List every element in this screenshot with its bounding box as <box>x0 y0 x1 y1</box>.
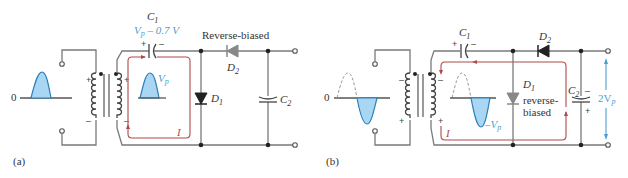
zero-label: 0 <box>324 91 330 103</box>
d1-label: D1 <box>522 78 535 93</box>
c2-label: C2 <box>280 93 291 108</box>
primary-minus-sign: – <box>86 116 91 126</box>
input-terminal-top <box>60 62 65 67</box>
node-top-d1 <box>511 49 516 54</box>
d1-label: D1 <box>210 92 223 107</box>
output-terminal-top <box>293 49 298 54</box>
primary-coil <box>406 73 411 118</box>
d2-diode <box>227 45 238 57</box>
panel-b-label: (b) <box>326 155 339 168</box>
node-top-c2 <box>579 49 584 54</box>
primary-minus-sign: – <box>399 75 404 85</box>
secondary-coil <box>431 73 436 118</box>
output-dim-arrow-up <box>604 58 608 64</box>
c1-minus-sign: – <box>471 39 476 49</box>
output-terminal-bottom <box>606 143 611 148</box>
input-negative-half-wave <box>357 98 377 124</box>
secondary-top-wire <box>117 51 149 73</box>
primary-plus-sign: + <box>399 116 404 126</box>
d2-label: D2 <box>538 30 551 45</box>
input-dashed-positive-half <box>337 73 357 98</box>
d2-diode <box>538 45 549 57</box>
node-top-d1 <box>199 49 204 54</box>
d1-diode <box>507 93 519 104</box>
primary-polarity-dot <box>413 72 417 76</box>
secondary-dashed-positive-half <box>452 73 471 98</box>
current-label: I <box>176 126 182 138</box>
primary-plus-sign: + <box>86 75 91 85</box>
output-terminal-bottom <box>293 143 298 148</box>
c1-label: C1 <box>147 10 158 25</box>
c1-plus-sign: + <box>141 39 146 49</box>
secondary-voltage-label: –Vp <box>484 118 501 132</box>
zero-label: 0 <box>11 91 17 103</box>
input-half-wave <box>31 72 51 98</box>
d2-status-label: Reverse-biased <box>202 29 270 41</box>
node-bottom-c2 <box>266 143 271 148</box>
secondary-half-wave <box>140 73 159 98</box>
output-dim-arrow-down <box>604 134 608 140</box>
node-top-c2 <box>266 49 271 54</box>
output-terminal-top <box>606 49 611 54</box>
c1-plus-sign: + <box>452 39 457 49</box>
current-arrow-right <box>141 55 146 59</box>
current-label: I <box>445 127 451 139</box>
primary-coil <box>92 73 97 118</box>
d1-status-line1: reverse- <box>523 94 559 106</box>
d1-status-line2: biased <box>523 106 552 118</box>
node-bottom-d1 <box>511 143 516 148</box>
secondary-plus-sign: + <box>438 116 443 126</box>
voltage-doubler-diagram: 0 + – + – + – C1 Vp – 0.7 V <box>0 0 628 178</box>
c1-voltage-label: Vp – 0.7 V <box>134 24 180 38</box>
c2-plus-sign: + <box>585 106 590 116</box>
input-terminal-top <box>373 62 378 67</box>
d2-label: D2 <box>226 61 239 76</box>
input-terminal-bottom <box>60 129 65 134</box>
primary-polarity-dot <box>99 72 103 76</box>
primary-top-wire <box>375 50 410 73</box>
secondary-minus-sign: – <box>438 75 443 85</box>
input-terminal-bottom <box>373 129 378 134</box>
node-bottom-c2 <box>579 143 584 148</box>
d1-diode <box>195 93 207 104</box>
current-arrow-up <box>564 111 568 116</box>
primary-top-wire <box>62 50 96 73</box>
c1-minus-sign: – <box>159 39 164 49</box>
c2-minus-sign: – <box>585 86 590 96</box>
c1-label: C1 <box>459 26 470 41</box>
primary-bottom-wire <box>375 120 410 145</box>
current-arrow-left <box>472 60 477 64</box>
node-bottom-d1 <box>199 143 204 148</box>
panel-a: 0 + – + – + – C1 Vp – 0.7 V <box>11 10 297 168</box>
panel-b: 0 – + – + + – C1 –Vp <box>324 26 622 168</box>
secondary-voltage-label: Vp <box>158 72 169 86</box>
panel-a-label: (a) <box>13 155 26 168</box>
secondary-coil <box>117 73 122 118</box>
